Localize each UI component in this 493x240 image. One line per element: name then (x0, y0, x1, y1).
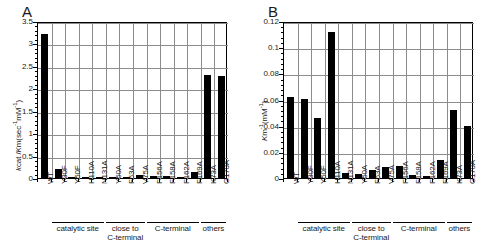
y-tick-label: 0.06 (249, 97, 279, 105)
y-minor-tick (281, 80, 283, 81)
y-minor-tick (281, 95, 283, 96)
y-tick-label: 0.02 (249, 149, 279, 157)
y-tick-label: 0.08 (249, 70, 279, 78)
y-tick-label: 0.1 (249, 44, 279, 52)
y-tick-label: 0.5 (3, 153, 33, 161)
y-minor-tick (35, 26, 37, 27)
y-tick-mark (279, 48, 283, 49)
x-tick-label: K73A (456, 165, 464, 184)
y-minor-tick (35, 53, 37, 54)
y-minor-tick (281, 121, 283, 122)
y-minor-tick (281, 59, 283, 60)
y-minor-tick (281, 163, 283, 164)
y-minor-tick (281, 69, 283, 70)
y-minor-tick (35, 80, 37, 81)
bar (204, 75, 211, 178)
x-tick-label: F162A (183, 161, 191, 184)
y-tick-mark (33, 67, 37, 68)
y-minor-tick (35, 161, 37, 162)
plot-area (37, 22, 227, 179)
y-minor-tick (35, 148, 37, 149)
group-label: others (433, 224, 486, 233)
y-minor-tick (35, 35, 37, 36)
y-minor-tick (35, 175, 37, 176)
x-tick-label: V75A (142, 165, 150, 184)
y-minor-tick (281, 116, 283, 117)
y-tick-label: 1.5 (3, 108, 33, 116)
y-minor-tick (35, 107, 37, 108)
y-minor-tick (281, 27, 283, 28)
y-tick-mark (33, 134, 37, 135)
x-tick-label: F53A (374, 166, 382, 184)
bar (287, 97, 294, 178)
x-tick-label: V75A (388, 165, 396, 184)
figure-root: A kcat /Km(sec-1mM-1)00.511.522.533.5WTY… (0, 0, 493, 240)
y-minor-tick (281, 148, 283, 149)
y-minor-tick (281, 158, 283, 159)
y-minor-tick (35, 31, 37, 32)
y-minor-tick (281, 142, 283, 143)
x-tick-label: N131A (347, 161, 355, 184)
y-tick-mark (279, 127, 283, 128)
y-minor-tick (281, 90, 283, 91)
y-minor-tick (281, 174, 283, 175)
y-minor-tick (281, 169, 283, 170)
y-tick-label: 0.04 (249, 123, 279, 131)
y-minor-tick (281, 137, 283, 138)
y-minor-tick (35, 40, 37, 41)
y-tick-mark (33, 157, 37, 158)
x-tick-label: H110A (334, 161, 342, 184)
y-minor-tick (35, 76, 37, 77)
x-tick-label: F53A (128, 166, 136, 184)
y-minor-tick (35, 71, 37, 72)
y-tick-label: 2.5 (3, 63, 33, 71)
y-minor-tick (35, 125, 37, 126)
x-tick-label: F158A (169, 161, 177, 184)
y-minor-tick (35, 94, 37, 95)
y-tick-label: 0.12 (249, 18, 279, 26)
y-tick-mark (279, 74, 283, 75)
x-tick-label: WT (47, 172, 55, 184)
y-tick-label: 1 (3, 130, 33, 138)
y-axis-label: Km-1(mM-1) (258, 101, 269, 141)
y-minor-tick (35, 130, 37, 131)
y-minor-tick (35, 121, 37, 122)
y-minor-tick (35, 143, 37, 144)
y-minor-tick (35, 170, 37, 171)
y-tick-label: 0 (249, 175, 279, 183)
y-minor-tick (35, 98, 37, 99)
y-tick-mark (279, 153, 283, 154)
y-tick-mark (33, 89, 37, 90)
x-tick-label: Y50F (74, 166, 82, 184)
x-tick-label: H110A (88, 161, 96, 184)
group-bracket (147, 222, 199, 223)
x-tick-mark (37, 179, 38, 182)
bar (41, 34, 48, 178)
y-minor-tick (281, 38, 283, 39)
x-tick-label: K73A (210, 165, 218, 184)
y-minor-tick (35, 166, 37, 167)
y-minor-tick (35, 62, 37, 63)
y-tick-label: 3.5 (3, 18, 33, 26)
group-bracket (52, 222, 104, 223)
y-minor-tick (281, 53, 283, 54)
y-tick-label: 3 (3, 40, 33, 48)
group-bracket (352, 222, 391, 223)
bar-series (284, 23, 472, 178)
x-tick-label: Y50A (361, 165, 369, 184)
bar (328, 32, 335, 178)
panel-a: A kcat /Km(sec-1mM-1)00.511.522.533.5WTY… (0, 0, 246, 240)
y-tick-mark (279, 22, 283, 23)
group-label: others (187, 224, 240, 233)
x-tick-label: G170A (223, 160, 231, 184)
panel-b: B Km-1(mM-1)00.020.040.060.080.10.12WTY3… (246, 0, 492, 240)
y-minor-tick (35, 139, 37, 140)
x-tick-label: F156A (402, 161, 410, 184)
x-tick-mark (283, 179, 284, 182)
y-minor-tick (281, 85, 283, 86)
y-minor-tick (281, 111, 283, 112)
bar-series (38, 23, 226, 178)
y-minor-tick (281, 106, 283, 107)
plot-area (283, 22, 473, 179)
y-tick-label: 2 (3, 85, 33, 93)
